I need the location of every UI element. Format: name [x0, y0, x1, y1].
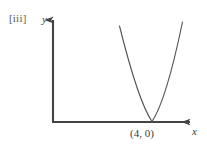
figure-container: [iii] y x (4, 0)	[0, 0, 207, 151]
vertex-point-label: (4, 0)	[130, 127, 154, 140]
graph-canvas	[0, 0, 207, 151]
parabola-curve	[120, 22, 183, 122]
y-axis-label: y	[42, 14, 47, 25]
x-axis-label: x	[192, 126, 197, 137]
